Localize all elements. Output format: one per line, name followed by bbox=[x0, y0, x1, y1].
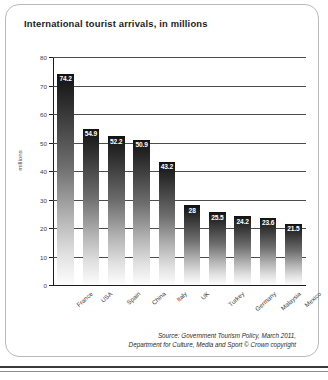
bar-value-label: 50.9 bbox=[135, 141, 147, 148]
y-axis-tick bbox=[49, 171, 53, 172]
y-axis-tick-label: 10 bbox=[40, 253, 47, 260]
bar: 52.2 bbox=[108, 136, 125, 285]
bar-value-label: 54.9 bbox=[85, 130, 97, 137]
bar-value-label: 74.2 bbox=[59, 75, 71, 82]
y-axis-tick-label: 80 bbox=[40, 54, 47, 61]
source-line-1: Source: Government Tourism Policy, March… bbox=[129, 331, 296, 340]
y-axis-tick-label: 70 bbox=[40, 82, 47, 89]
bar-value-label: 25.5 bbox=[211, 214, 223, 221]
y-axis-tick-label: 30 bbox=[40, 196, 47, 203]
x-axis-tick-label: France bbox=[75, 290, 94, 308]
x-axis-tick-label: Italy bbox=[174, 290, 187, 303]
bar-value-label: 24.2 bbox=[237, 218, 249, 225]
bar: 74.2 bbox=[57, 74, 74, 285]
source-note: Source: Government Tourism Policy, March… bbox=[129, 331, 296, 349]
x-axis-tick-label: Mexico bbox=[303, 290, 322, 308]
footer-rule-thin bbox=[0, 371, 328, 372]
x-axis-tick-label: Spain bbox=[125, 290, 141, 306]
x-axis-tick-label: USA bbox=[99, 290, 113, 304]
x-axis-tick-label: Germany bbox=[254, 290, 278, 312]
bar: 23.6 bbox=[260, 218, 277, 285]
bar-value-label: 23.6 bbox=[262, 219, 274, 226]
plot-area: 01020304050607080 74.254.952.250.943.228… bbox=[53, 57, 306, 285]
y-axis-tick bbox=[49, 143, 53, 144]
bar: 43.2 bbox=[159, 162, 176, 285]
gridline bbox=[53, 57, 306, 58]
y-axis-tick-label: 0 bbox=[44, 282, 47, 289]
y-axis-tick bbox=[49, 200, 53, 201]
x-axis-tick-label: UK bbox=[199, 290, 210, 301]
footer-rule-thick bbox=[0, 366, 328, 368]
bar-value-label: 43.2 bbox=[161, 163, 173, 170]
gridline bbox=[53, 114, 306, 115]
y-axis-tick bbox=[49, 57, 53, 58]
y-axis-tick-label: 60 bbox=[40, 111, 47, 118]
page-title: International tourist arrivals, in milli… bbox=[24, 18, 208, 29]
gridline bbox=[53, 86, 306, 87]
y-axis-tick bbox=[49, 228, 53, 229]
y-axis-title: millions bbox=[16, 141, 23, 181]
bar-value-label: 28 bbox=[189, 207, 196, 214]
chart-card: International tourist arrivals, in milli… bbox=[5, 4, 319, 357]
bar: 25.5 bbox=[209, 212, 226, 285]
bar-value-label: 52.2 bbox=[110, 138, 122, 145]
bar: 28 bbox=[184, 205, 201, 285]
source-line-2: Department for Culture, Media and Sport … bbox=[129, 340, 296, 349]
bar: 24.2 bbox=[234, 216, 251, 285]
bar-value-label: 21.5 bbox=[287, 225, 299, 232]
y-axis-tick-label: 40 bbox=[40, 168, 47, 175]
x-axis-tick-label: Turkey bbox=[227, 290, 246, 308]
x-axis-tick-label: China bbox=[150, 290, 167, 306]
x-axis-line bbox=[53, 285, 306, 286]
y-axis-tick-label: 20 bbox=[40, 225, 47, 232]
y-axis-tick bbox=[49, 285, 53, 286]
bar: 50.9 bbox=[133, 140, 150, 285]
bar: 54.9 bbox=[83, 129, 100, 285]
y-axis-tick bbox=[49, 257, 53, 258]
x-axis-tick-label: Malaysia bbox=[279, 290, 302, 312]
bar: 21.5 bbox=[285, 224, 302, 285]
y-axis-tick-label: 50 bbox=[40, 139, 47, 146]
y-axis-tick bbox=[49, 114, 53, 115]
y-axis-tick bbox=[49, 86, 53, 87]
